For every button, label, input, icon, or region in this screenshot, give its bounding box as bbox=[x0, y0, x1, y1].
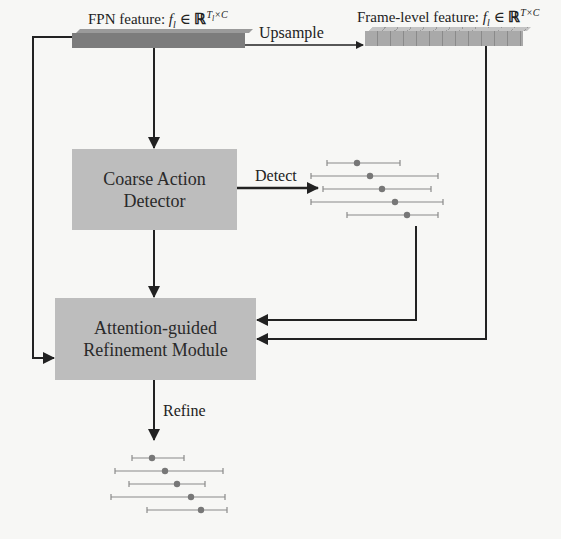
refined-interval bbox=[132, 455, 184, 461]
coarse-interval bbox=[311, 173, 438, 179]
refined-interval bbox=[147, 507, 227, 513]
refined-interval bbox=[111, 494, 225, 500]
coarse-interval bbox=[323, 186, 431, 192]
fpn-to-refinement-arrow bbox=[33, 37, 72, 358]
coarse-proposals bbox=[311, 160, 443, 218]
frame-to-refinement-arrow bbox=[257, 46, 486, 339]
coarse-interval bbox=[347, 212, 438, 218]
proposals-to-refinement-arrow bbox=[257, 226, 416, 320]
refined-proposals bbox=[111, 455, 227, 513]
coarse-interval bbox=[327, 160, 400, 166]
refined-interval bbox=[115, 468, 223, 474]
coarse-interval bbox=[311, 199, 443, 205]
diagram-connectors bbox=[0, 0, 561, 539]
refined-interval bbox=[129, 481, 205, 487]
